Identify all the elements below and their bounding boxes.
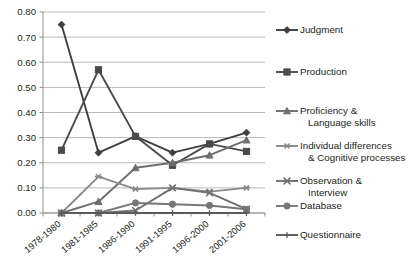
legend-label-line2: Language skills: [308, 117, 376, 128]
legend-label: Proficiency &: [300, 105, 358, 116]
x-tick-label-1981-1985: 1981-1985: [59, 219, 99, 255]
marker-square: [95, 67, 101, 73]
legend-label: Questionnaire: [300, 229, 362, 240]
legend-entry-production[interactable]: Production: [276, 66, 347, 77]
marker-circle: [132, 200, 138, 206]
line-chart: 0.000.100.200.300.400.500.600.700.80 197…: [0, 0, 413, 271]
x-tick-label-1996-2000: 1996-2000: [170, 219, 210, 255]
legend-label-line2: & Cognitive processes: [308, 152, 406, 163]
x-axis-tick-labels: 1978-19801981-19851986-19901991-19951996…: [22, 219, 247, 255]
legend-entry-judgment[interactable]: Judgment: [276, 24, 343, 35]
y-tick-label: 0.70: [17, 32, 36, 43]
y-tick-label: 0.30: [17, 132, 36, 143]
marker-circle: [169, 201, 175, 207]
series-production: [58, 67, 249, 169]
marker-diamond: [169, 149, 176, 156]
y-tick-label: 0.40: [17, 107, 36, 118]
legend-label: Judgment: [300, 24, 343, 35]
series-path: [62, 177, 247, 213]
marker-square: [284, 69, 290, 75]
marker-diamond: [243, 129, 250, 136]
marker-diamond: [284, 27, 291, 34]
chart-svg: 0.000.100.200.300.400.500.600.700.80 197…: [0, 0, 413, 271]
y-tick-label: 0.20: [17, 157, 36, 168]
marker-square: [206, 141, 212, 147]
legend-label-line2: Interview: [308, 187, 348, 198]
marker-square: [58, 147, 64, 153]
y-tick-label: 0.50: [17, 82, 36, 93]
marker-diamond: [95, 149, 102, 156]
legend-entry-database[interactable]: Database: [276, 200, 342, 211]
x-tick-label-1991-1995: 1991-1995: [133, 219, 173, 255]
legend-label: Production: [300, 66, 347, 77]
x-tick-label-1978-1980: 1978-1980: [22, 219, 62, 255]
legend-entry-observation-interview[interactable]: Observation &Interview: [276, 175, 363, 198]
legend-entry-proficiency-language-skills[interactable]: Proficiency &Language skills: [276, 105, 376, 128]
legend-entry-questionnaire[interactable]: Questionnaire: [276, 229, 362, 240]
gridlines: [43, 12, 265, 213]
y-tick-label: 0.80: [17, 6, 36, 17]
series-individual-differences-cognitive-processes: [58, 174, 250, 215]
legend-label: Observation &: [300, 175, 363, 186]
marker-square: [243, 148, 249, 154]
axes: [40, 12, 266, 217]
marker-square: [132, 133, 138, 139]
data-series-layer: [58, 21, 250, 216]
series-judgment: [58, 21, 250, 156]
marker-circle: [206, 202, 212, 208]
y-tick-label: 0.10: [17, 182, 36, 193]
y-tick-label: 0.00: [17, 207, 36, 218]
chart-legend: JudgmentProductionProficiency &Language …: [276, 24, 406, 240]
legend-entry-individual-differences-cognitive-processes[interactable]: Individual differences& Cognitive proces…: [276, 140, 406, 163]
x-tick-label-2001-2006: 2001-2006: [207, 219, 247, 255]
y-axis-tick-labels: 0.000.100.200.300.400.500.600.700.80: [17, 6, 36, 218]
legend-label: Database: [300, 200, 342, 211]
marker-circle: [284, 203, 290, 209]
marker-diamond: [58, 21, 65, 28]
y-tick-label: 0.60: [17, 57, 36, 68]
x-tick-label-1986-1990: 1986-1990: [96, 219, 136, 255]
legend-label: Individual differences: [300, 140, 392, 151]
